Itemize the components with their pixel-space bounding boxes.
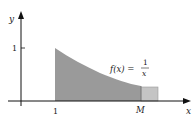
m-label: M: [135, 105, 145, 115]
y-axis-arrow-icon: [18, 11, 24, 19]
function-label-denominator: x: [142, 69, 147, 78]
y-axis-label: y: [8, 14, 15, 24]
function-label-numerator: 1: [143, 58, 148, 67]
y-tick-label: 1: [12, 44, 17, 53]
approximation-strip: [141, 87, 158, 101]
x-axis-label: x: [186, 106, 191, 116]
area-under-curve-diagram: y x 1 1 M f(x) = 1 x: [0, 0, 194, 128]
x-tick-label: 1: [53, 107, 58, 116]
function-label-prefix: f(x) =: [109, 64, 134, 74]
shaded-area: [55, 48, 141, 101]
x-axis-arrow-icon: [183, 98, 191, 104]
